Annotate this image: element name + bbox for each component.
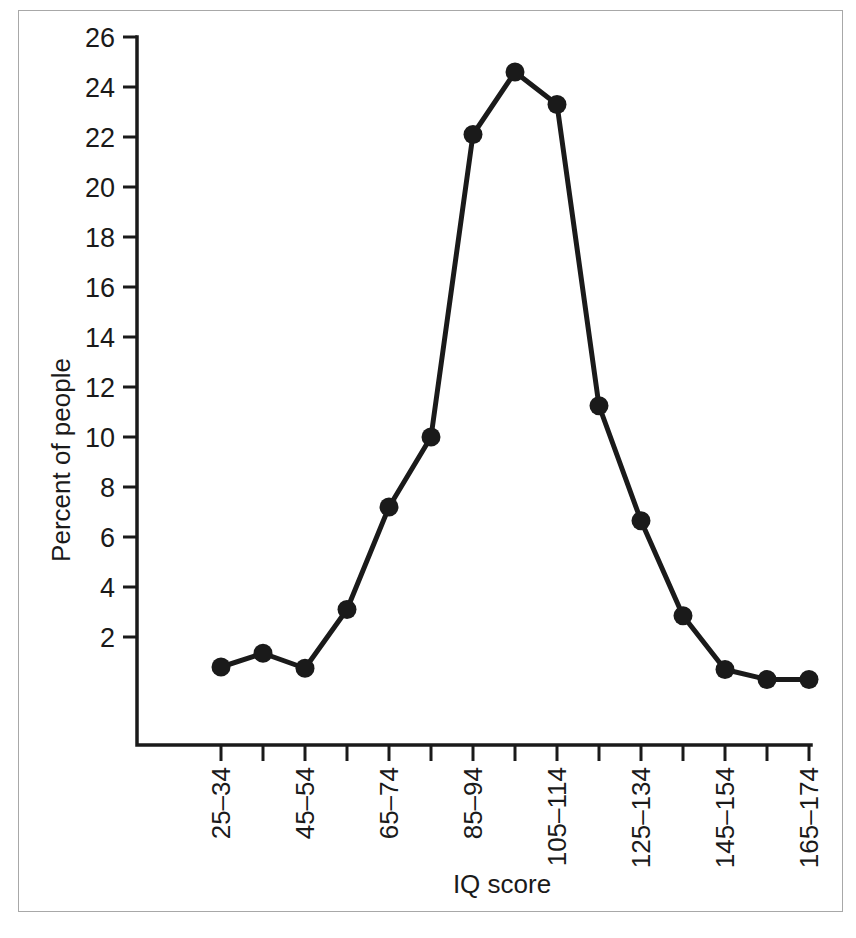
y-axis-tick-label: 14 — [85, 323, 115, 353]
x-axis-tick-label: 165–174 — [794, 767, 824, 868]
x-axis-tick-marks — [221, 745, 809, 761]
x-axis-tick-label: 45–54 — [290, 767, 320, 839]
y-axis-tick-label: 6 — [100, 523, 115, 553]
data-point-marker — [338, 600, 357, 619]
y-axis-tick-label: 16 — [85, 273, 115, 303]
x-axis-tick-label: 65–74 — [374, 767, 404, 839]
data-point-marker — [758, 670, 777, 689]
data-point-marker — [632, 511, 651, 530]
x-axis-tick-label: 145–154 — [710, 767, 740, 868]
y-axis-tick-label: 12 — [85, 373, 115, 403]
data-point-marker — [548, 95, 567, 114]
y-axis-tick-labels: 2468101214161820222426 — [85, 23, 115, 653]
y-axis-tick-label: 2 — [100, 623, 115, 653]
y-axis-tick-label: 18 — [85, 223, 115, 253]
x-axis-tick-label: 85–94 — [458, 767, 488, 839]
data-point-marker — [464, 125, 483, 144]
line-chart: 2468101214161820222426 25–3445–5465–7485… — [0, 0, 856, 938]
data-point-marker — [212, 658, 231, 677]
y-axis-tick-label: 10 — [85, 423, 115, 453]
data-series-markers — [212, 63, 819, 690]
data-series-line — [221, 72, 809, 680]
x-axis-tick-label: 125–134 — [626, 767, 656, 868]
y-axis-tick-label: 26 — [85, 23, 115, 53]
y-axis-tick-label: 22 — [85, 123, 115, 153]
y-axis-tick-label: 4 — [100, 573, 115, 603]
data-point-marker — [296, 659, 315, 678]
y-axis-tick-label: 8 — [100, 473, 115, 503]
data-point-marker — [800, 670, 819, 689]
x-axis-tick-label: 25–34 — [206, 767, 236, 839]
y-axis-title: Percent of people — [46, 358, 76, 562]
data-point-marker — [506, 63, 525, 82]
y-axis-tick-marks — [123, 37, 137, 637]
chart-plot-area: 2468101214161820222426 25–3445–5465–7485… — [0, 0, 856, 938]
y-axis-tick-label: 20 — [85, 173, 115, 203]
data-point-marker — [380, 498, 399, 517]
x-axis-tick-labels: 25–3445–5465–7485–94105–114125–134145–15… — [206, 767, 824, 868]
y-axis-tick-label: 24 — [85, 73, 115, 103]
data-point-marker — [716, 660, 735, 679]
data-point-marker — [422, 428, 441, 447]
data-point-marker — [590, 396, 609, 415]
x-axis-tick-label: 105–114 — [542, 767, 572, 866]
x-axis-title: IQ score — [453, 869, 551, 899]
data-point-marker — [254, 644, 273, 663]
data-point-marker — [674, 606, 693, 625]
